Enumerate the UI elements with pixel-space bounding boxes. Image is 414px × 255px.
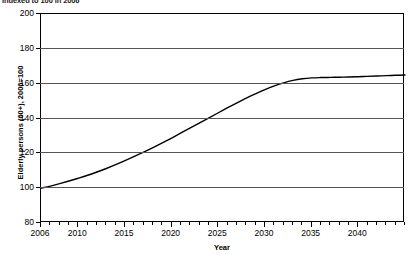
x-minor-tick <box>348 222 349 225</box>
y-tick-label: 120 <box>0 148 34 157</box>
y-tick-mark <box>36 152 40 153</box>
x-minor-tick <box>395 222 396 225</box>
x-minor-tick <box>255 222 256 225</box>
x-tick-label: 2020 <box>151 229 191 238</box>
x-minor-tick <box>329 222 330 225</box>
x-minor-tick <box>208 222 209 225</box>
x-minor-tick <box>339 222 340 225</box>
y-tick-mark <box>36 83 40 84</box>
x-major-tick <box>264 222 265 227</box>
chart-figure: Indexed to 100 in 2006 Elderly persons (… <box>0 0 414 255</box>
x-minor-tick <box>59 222 60 225</box>
x-minor-tick <box>273 222 274 225</box>
y-tick-mark <box>36 118 40 119</box>
x-minor-tick <box>227 222 228 225</box>
x-minor-tick <box>115 222 116 225</box>
x-minor-tick <box>143 222 144 225</box>
x-minor-tick <box>87 222 88 225</box>
x-minor-tick <box>199 222 200 225</box>
x-minor-tick <box>236 222 237 225</box>
x-minor-tick <box>133 222 134 225</box>
y-tick-label: 200 <box>0 9 34 18</box>
x-minor-tick <box>96 222 97 225</box>
y-axis-title: Elderly persons (60+), 2006=100 <box>16 43 25 203</box>
x-tick-label: 2006 <box>20 229 60 238</box>
x-tick-label: 2015 <box>104 229 144 238</box>
gridline <box>40 83 404 84</box>
y-tick-label: 100 <box>0 183 34 192</box>
x-minor-tick <box>49 222 50 225</box>
x-minor-tick <box>180 222 181 225</box>
x-minor-tick <box>189 222 190 225</box>
y-tick-mark <box>36 13 40 14</box>
x-minor-tick <box>385 222 386 225</box>
x-minor-tick <box>152 222 153 225</box>
x-minor-tick <box>245 222 246 225</box>
x-tick-label: 2025 <box>197 229 237 238</box>
y-tick-label: 80 <box>0 218 34 227</box>
x-major-tick <box>217 222 218 227</box>
x-tick-label: 2040 <box>337 229 377 238</box>
x-major-tick <box>40 222 41 227</box>
x-tick-label: 2035 <box>291 229 331 238</box>
x-axis-title: Year <box>40 243 404 252</box>
x-minor-tick <box>283 222 284 225</box>
x-minor-tick <box>161 222 162 225</box>
x-major-tick <box>77 222 78 227</box>
gridline <box>40 187 404 188</box>
x-minor-tick <box>68 222 69 225</box>
x-minor-tick <box>105 222 106 225</box>
x-major-tick <box>357 222 358 227</box>
y-tick-mark <box>36 187 40 188</box>
x-minor-tick <box>376 222 377 225</box>
x-minor-tick <box>367 222 368 225</box>
x-minor-tick <box>320 222 321 225</box>
x-minor-tick <box>404 222 405 225</box>
y-tick-mark <box>36 48 40 49</box>
x-major-tick <box>171 222 172 227</box>
y-tick-label: 160 <box>0 79 34 88</box>
x-major-tick <box>311 222 312 227</box>
x-minor-tick <box>301 222 302 225</box>
x-major-tick <box>124 222 125 227</box>
gridline <box>40 152 404 153</box>
x-minor-tick <box>292 222 293 225</box>
x-tick-label: 2030 <box>244 229 284 238</box>
y-tick-label: 180 <box>0 44 34 53</box>
x-tick-label: 2010 <box>57 229 97 238</box>
y-tick-label: 140 <box>0 114 34 123</box>
gridline <box>40 118 404 119</box>
gridline <box>40 48 404 49</box>
